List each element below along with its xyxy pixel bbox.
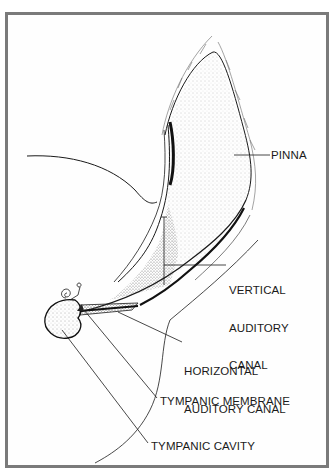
tympanic-cavity-shape	[45, 300, 81, 339]
label-vertical-line2: AUDITORY	[229, 322, 289, 335]
cochlea-spiral	[62, 289, 71, 298]
label-horizontal-auditory-canal: HORIZONTAL AUDITORY CANAL	[184, 340, 286, 428]
ossicles	[70, 283, 81, 300]
label-vertical-line1: VERTICAL	[229, 284, 289, 297]
leader-tympanic-cavity	[62, 330, 148, 443]
leader-tympanic-membrane	[84, 310, 157, 398]
label-horizontal-line1: HORIZONTAL	[184, 365, 286, 378]
label-tympanic-cavity: TYMPANIC CAVITY	[151, 440, 255, 453]
label-pinna: PINNA	[271, 149, 307, 162]
label-tympanic-membrane: TYMPANIC MEMBRANE	[160, 395, 290, 408]
leader-horizontal	[118, 312, 182, 342]
head-outline	[27, 156, 157, 203]
